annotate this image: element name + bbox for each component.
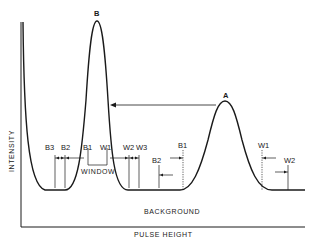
marker-w1-right: W1 bbox=[258, 141, 269, 150]
y-axis-label: INTENSITY bbox=[8, 130, 15, 172]
marker-b1-right: B1 bbox=[178, 141, 187, 150]
left-marker-arrowheads bbox=[56, 157, 138, 160]
right-marker-arrowheads bbox=[160, 157, 287, 177]
peak-b-label: B bbox=[94, 9, 100, 18]
background-label: BACKGROUND bbox=[144, 208, 200, 215]
arrow-head-icon bbox=[110, 103, 116, 108]
marker-b2-right: B2 bbox=[152, 156, 161, 165]
marker-b3: B3 bbox=[45, 143, 54, 152]
marker-w2: W2 bbox=[123, 143, 134, 152]
right-marker-lines bbox=[159, 150, 288, 190]
marker-w1: W1 bbox=[100, 143, 111, 152]
marker-w2-right: W2 bbox=[284, 156, 295, 165]
marker-w3: W3 bbox=[136, 143, 147, 152]
marker-b1: B1 bbox=[83, 143, 92, 152]
pulse-height-diagram: B A B3 B2 B1 W1 W2 W3 WINDOW bbox=[0, 0, 319, 243]
marker-b2: B2 bbox=[61, 143, 70, 152]
window-label: WINDOW bbox=[81, 168, 115, 175]
peak-a-label: A bbox=[223, 91, 229, 100]
x-axis-label: PULSE HEIGHT bbox=[134, 231, 193, 238]
